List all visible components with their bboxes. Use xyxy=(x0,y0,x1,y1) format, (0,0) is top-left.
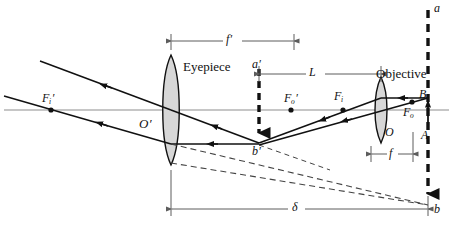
object-base-label: A xyxy=(421,129,428,141)
object-top-label: B xyxy=(419,88,426,100)
dimension-tube-length xyxy=(259,66,381,82)
objective-label: Objective xyxy=(376,67,427,80)
eyepiece-label: Eyepiece xyxy=(183,60,231,73)
dot-F-o-prime xyxy=(288,107,293,112)
dot-F-i xyxy=(340,107,345,112)
focal-point-objective-image-label: Fi xyxy=(334,90,343,102)
diagram-canvas xyxy=(0,0,449,228)
dot-F-o xyxy=(409,99,414,104)
focal-point-eyepiece-object-label: Fo′ xyxy=(284,92,298,104)
tube-length-label: L xyxy=(309,66,316,78)
dimension-optical-interval xyxy=(171,170,428,216)
eyepiece-center-label: O′ xyxy=(139,117,151,130)
dimension-eyepiece-focal-length xyxy=(171,34,294,50)
intermediate-image-top-label: a′ xyxy=(252,58,261,70)
dot-F-i-prime xyxy=(48,107,53,112)
final-image-top-label: a xyxy=(434,2,440,14)
eyepiece-focal-length-label: f′ xyxy=(226,33,232,45)
final-image-base-label: b xyxy=(434,203,440,215)
focal-point-objective-object-label: Fo xyxy=(403,106,414,118)
optics-ray-diagram: Eyepiece Objective Fi′ Fo′ Fi Fo O′ O B … xyxy=(0,0,449,228)
optical-interval-label: δ xyxy=(292,201,298,213)
focal-point-eyepiece-image-label: Fi′ xyxy=(42,92,54,104)
objective-focal-length-label: f xyxy=(389,147,392,159)
intermediate-image-base-label: b′ xyxy=(252,145,261,157)
objective-center-label: O xyxy=(385,126,394,138)
